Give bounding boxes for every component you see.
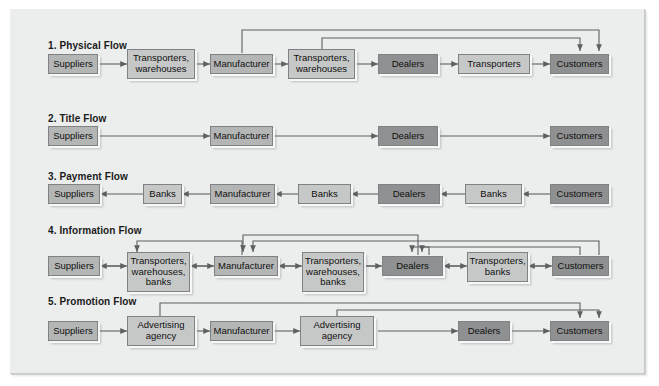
node-payment-suppliers[interactable]: Suppliers <box>48 184 100 204</box>
node-payment-banks-3[interactable]: Banks <box>465 184 522 204</box>
flow-title-payment-flow: 3. Payment Flow <box>48 171 128 182</box>
node-promotion-suppliers[interactable]: Suppliers <box>48 321 98 341</box>
node-payment-dealers[interactable]: Dealers <box>378 184 440 204</box>
node-physical-customers[interactable]: Customers <box>550 54 609 74</box>
node-promotion-manufacturer[interactable]: Manufacturer <box>210 321 273 341</box>
node-title-manufacturer[interactable]: Manufacturer <box>210 126 273 146</box>
node-title-dealers[interactable]: Dealers <box>378 126 438 146</box>
node-physical-transporters-warehouses-2[interactable]: Transporters, warehouses <box>288 49 355 79</box>
node-information-manufacturer[interactable]: Manufacturer <box>214 256 278 276</box>
node-payment-banks-2[interactable]: Banks <box>298 184 351 204</box>
node-promotion-customers[interactable]: Customers <box>550 321 609 341</box>
node-promotion-advertising-agency-2[interactable]: Advertising agency <box>300 316 374 346</box>
node-information-transporters-banks[interactable]: Transporters, banks <box>467 252 528 282</box>
node-promotion-advertising-agency-1[interactable]: Advertising agency <box>127 316 195 346</box>
node-physical-dealers[interactable]: Dealers <box>378 54 438 74</box>
node-payment-customers[interactable]: Customers <box>550 184 609 204</box>
node-physical-suppliers[interactable]: Suppliers <box>48 54 98 74</box>
node-title-customers[interactable]: Customers <box>550 126 609 146</box>
node-information-transporters-warehouses-banks-1[interactable]: Transporters, warehouses, banks <box>127 252 190 292</box>
node-title-suppliers[interactable]: Suppliers <box>48 126 98 146</box>
flow-title-title-flow: 2. Title Flow <box>48 113 106 124</box>
diagram-page: 1. Physical Flow Suppliers Transporters,… <box>10 9 645 374</box>
node-information-transporters-warehouses-banks-2[interactable]: Transporters, warehouses, banks <box>302 252 364 292</box>
node-payment-manufacturer[interactable]: Manufacturer <box>210 184 275 204</box>
node-physical-transporters-warehouses-1[interactable]: Transporters, warehouses <box>127 49 195 79</box>
node-information-customers[interactable]: Customers <box>552 256 609 276</box>
flow-title-information-flow: 4. Information Flow <box>48 225 142 236</box>
flow-title-promotion-flow: 5. Promotion Flow <box>48 296 136 307</box>
node-payment-banks-1[interactable]: Banks <box>143 184 182 204</box>
diagram-canvas: 1. Physical Flow Suppliers Transporters,… <box>10 9 644 373</box>
node-promotion-dealers[interactable]: Dealers <box>458 321 510 341</box>
node-physical-manufacturer[interactable]: Manufacturer <box>210 54 273 74</box>
node-information-dealers[interactable]: Dealers <box>382 256 443 276</box>
node-information-suppliers[interactable]: Suppliers <box>48 256 100 276</box>
flow-title-physical-flow: 1. Physical Flow <box>48 40 127 51</box>
node-physical-transporters-3[interactable]: Transporters <box>458 54 530 74</box>
